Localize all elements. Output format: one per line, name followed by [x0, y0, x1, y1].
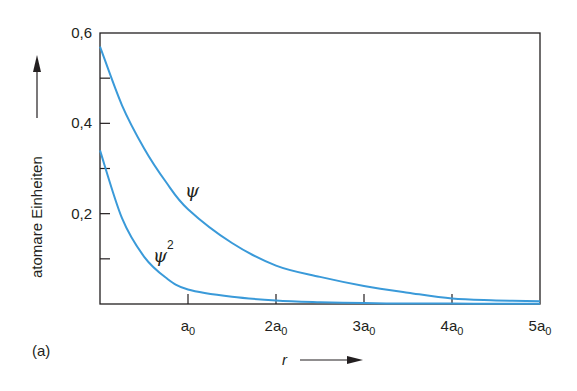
x-tick-label: 5a0: [529, 317, 552, 337]
x-tick-label: 2a0: [265, 317, 288, 337]
x-tick-label: 3a0: [353, 317, 376, 337]
panel-label: (a): [32, 342, 50, 359]
psi-squared-curve-label: ψ 2: [153, 238, 174, 266]
x-axis-label-group: r: [282, 351, 363, 368]
chart: atomare Einheiten 0,20,40,6 a02a03a04a05…: [0, 0, 577, 391]
x-tick-label: a0: [181, 317, 195, 337]
psi-squared-curve: [100, 150, 540, 303]
x-axis-arrow-icon: [347, 356, 363, 364]
y-tick-label: 0,4: [71, 114, 92, 131]
y-axis-arrow-icon: [33, 55, 41, 72]
x-axis-label: r: [282, 351, 288, 368]
y-tick-label: 0,6: [71, 24, 92, 41]
y-tick-label: 0,2: [71, 205, 92, 222]
psi-curve-label: ψ: [185, 180, 200, 201]
x-tick-label: 4a0: [441, 317, 464, 337]
y-axis-label-group: atomare Einheiten: [28, 55, 45, 278]
y-axis-label: atomare Einheiten: [28, 156, 45, 278]
psi-squared-label-base: ψ: [153, 245, 168, 266]
psi-squared-label-superscript: 2: [167, 238, 174, 252]
